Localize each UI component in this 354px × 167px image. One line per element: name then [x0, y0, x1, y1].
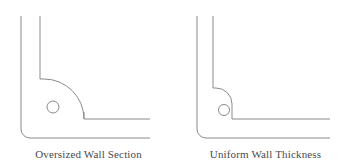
uniform-section-indicator-circle [219, 105, 230, 116]
wall-section-comparison-figure: Oversized Wall Section Uniform Wall Thic… [0, 0, 354, 167]
figure-uniform-wall-thickness: Uniform Wall Thickness [177, 0, 354, 167]
oversized-wall-section-drawing [0, 0, 177, 167]
inner-wall-outline-small-radius [213, 16, 330, 119]
caption-oversized-wall-section: Oversized Wall Section [0, 148, 177, 161]
figure-oversized-wall-section: Oversized Wall Section [0, 0, 177, 167]
caption-uniform-wall-thickness: Uniform Wall Thickness [177, 148, 354, 161]
uniform-wall-thickness-drawing [177, 0, 354, 167]
outer-wall-outline [197, 16, 330, 138]
inner-wall-outline-large-radius [40, 16, 150, 119]
thick-section-indicator-circle [47, 101, 59, 113]
